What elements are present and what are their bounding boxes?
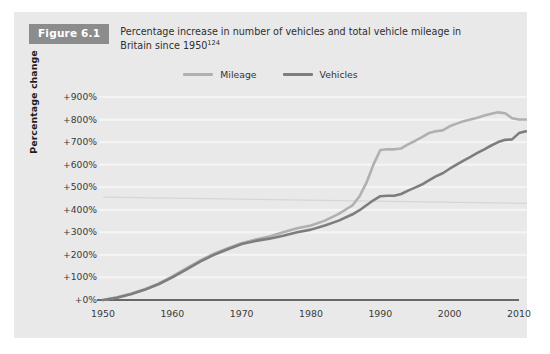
y-tick-label: +500% — [45, 181, 97, 192]
y-tick-label: +0% — [45, 294, 97, 305]
x-tick-label: 2010 — [495, 308, 543, 319]
chart-svg — [14, 12, 527, 338]
x-tick-label: 2000 — [426, 308, 474, 319]
x-tick-label: 1960 — [148, 308, 196, 319]
x-tick-label: 1990 — [356, 308, 404, 319]
figure-card: Figure 6.1 Percentage increase in number… — [14, 12, 527, 338]
y-tick-label: +400% — [45, 204, 97, 215]
x-tick-label: 1970 — [218, 308, 266, 319]
y-tick-label: +800% — [45, 114, 97, 125]
y-tick-label: +100% — [45, 271, 97, 282]
series-line-vehicles — [103, 131, 526, 300]
y-tick-label: +200% — [45, 249, 97, 260]
y-tick-label: +300% — [45, 226, 97, 237]
y-tick-label: +900% — [45, 91, 97, 102]
y-tick-label: +700% — [45, 136, 97, 147]
chart-plot-area: Percentage change +0%+100%+200%+300%+400… — [14, 12, 527, 338]
trend-artifact-line — [103, 197, 527, 203]
series-line-mileage — [103, 112, 526, 300]
y-tick-label: +600% — [45, 159, 97, 170]
x-tick-label: 1950 — [79, 308, 127, 319]
x-tick-label: 1980 — [287, 308, 335, 319]
